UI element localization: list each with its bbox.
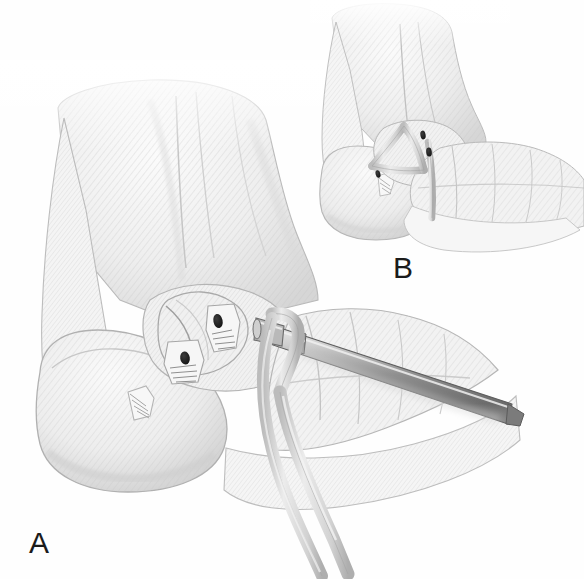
panel-label-a: A [29,528,50,558]
figure-container: A B [0,0,584,579]
panel-a-bone-tunnel-superior [206,304,240,352]
panel-label-b: B [393,253,414,283]
panel-a-top-fade [0,60,340,152]
ankle-reconstruction-illustration [0,0,584,579]
panel-a-bone-tunnel-inferior [164,340,204,384]
